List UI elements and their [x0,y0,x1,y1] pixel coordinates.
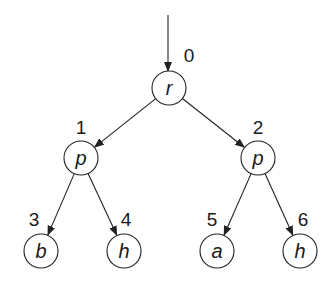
tree-node-4: h4 [107,209,141,268]
edge-arrow-1-to-3 [48,174,74,235]
node-index-label: 5 [207,209,218,230]
node-label: b [35,240,46,262]
node-label: p [251,147,263,169]
node-index-label: 1 [76,117,87,138]
node-label: a [211,240,222,262]
tree-node-2: p2 [241,117,275,175]
node-index-label: 4 [121,209,132,230]
node-index-label: 2 [253,117,264,138]
edge-arrow-2-to-6 [265,174,293,236]
edge-arrow-0-to-1 [95,99,156,148]
tree-node-5: a5 [200,209,234,268]
nodes-layer: r0p1p2b3h4a5h6 [24,45,317,268]
tree-diagram: r0p1p2b3h4a5h6 [0,0,329,287]
tree-node-6: h6 [283,209,317,268]
edge-arrow-0-to-2 [182,99,244,148]
tree-node-1: p1 [64,117,98,175]
tree-node-0: r0 [152,45,194,105]
node-index-label: 6 [298,209,309,230]
node-label: p [74,147,86,169]
node-label: h [118,240,129,262]
tree-node-3: b3 [24,209,58,268]
node-label: h [294,240,305,262]
node-index-label: 0 [184,45,195,66]
node-index-label: 3 [29,209,40,230]
edge-arrow-2-to-5 [224,174,251,235]
edge-arrow-1-to-4 [88,173,117,235]
